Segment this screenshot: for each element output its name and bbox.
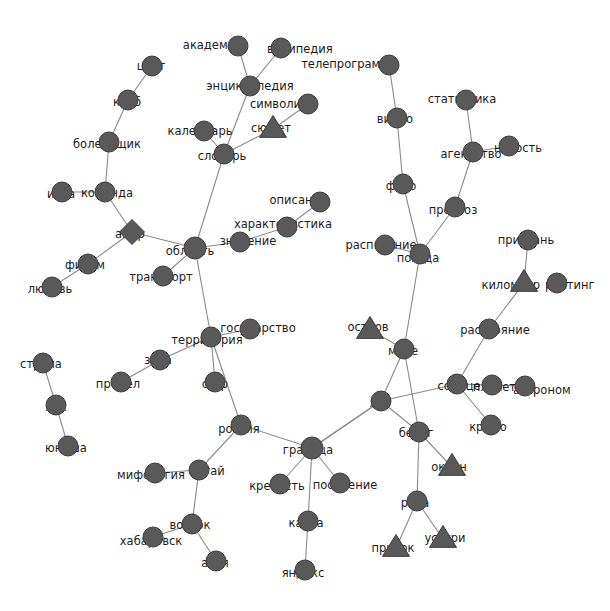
circle-node-icon[interactable] (194, 121, 214, 141)
graph-node[interactable]: восток (170, 514, 211, 534)
circle-node-icon[interactable] (150, 350, 170, 370)
graph-node[interactable]: сюжет (251, 116, 291, 138)
circle-node-icon[interactable] (270, 474, 290, 494)
circle-node-icon[interactable] (379, 55, 399, 75)
graph-node[interactable]: лук (45, 395, 66, 415)
circle-node-icon[interactable] (201, 327, 221, 347)
circle-node-icon[interactable] (393, 174, 413, 194)
graph-node[interactable]: яндекс (282, 560, 325, 580)
circle-node-icon[interactable] (46, 395, 66, 415)
circle-node-icon[interactable] (301, 437, 323, 459)
circle-node-icon[interactable] (499, 136, 519, 156)
circle-node-icon[interactable] (394, 339, 414, 359)
circle-node-icon[interactable] (482, 375, 502, 395)
graph-node[interactable]: река (401, 491, 429, 511)
circle-node-icon[interactable] (78, 254, 98, 274)
graph-node[interactable]: область (166, 237, 215, 259)
circle-node-icon[interactable] (387, 108, 407, 128)
graph-node[interactable]: прогноз (429, 197, 478, 217)
circle-node-icon[interactable] (184, 237, 206, 259)
graph-node[interactable]: телепрограмма (301, 55, 399, 75)
graph-node[interactable]: уссури (424, 526, 465, 548)
graph-node[interactable]: цвет (137, 56, 166, 76)
circle-node-icon[interactable] (371, 391, 391, 411)
graph-node[interactable]: юноша (45, 436, 87, 456)
circle-node-icon[interactable] (42, 277, 62, 297)
circle-node-icon[interactable] (240, 319, 260, 339)
graph-node[interactable]: команда (81, 182, 133, 202)
graph-node[interactable]: фото (386, 174, 417, 194)
diamond-node-icon[interactable] (120, 220, 145, 245)
circle-node-icon[interactable] (298, 511, 318, 531)
graph-node[interactable]: граница (283, 437, 333, 459)
circle-node-icon[interactable] (231, 415, 251, 435)
circle-node-icon[interactable] (206, 551, 226, 571)
graph-node[interactable]: календарь (167, 121, 232, 141)
circle-node-icon[interactable] (33, 353, 53, 373)
graph-node[interactable]: транспорт (129, 266, 193, 286)
graph-node[interactable]: болельщик (73, 132, 141, 152)
circle-node-icon[interactable] (214, 144, 234, 164)
graph-node[interactable]: энциклопедия (206, 76, 293, 96)
graph-node[interactable]: крыло (469, 415, 507, 435)
circle-node-icon[interactable] (410, 244, 430, 264)
graph-node[interactable]: академик (183, 36, 248, 56)
circle-node-icon[interactable] (182, 514, 202, 534)
circle-node-icon[interactable] (271, 38, 291, 58)
graph-node[interactable]: статистика (428, 90, 497, 110)
graph-node[interactable]: россия (218, 415, 259, 436)
graph-node[interactable]: километр (481, 270, 540, 292)
circle-node-icon[interactable] (277, 217, 297, 237)
circle-node-icon[interactable] (409, 422, 429, 442)
graph-node[interactable]: любовь (28, 277, 73, 297)
graph-node[interactable]: игра (47, 182, 75, 202)
circle-node-icon[interactable] (515, 376, 535, 396)
circle-node-icon[interactable] (298, 94, 318, 114)
circle-node-icon[interactable] (547, 273, 567, 293)
circle-node-icon[interactable] (111, 372, 131, 392)
graph-node[interactable]: астроном (513, 376, 571, 397)
graph-node[interactable]: берег (399, 422, 434, 442)
graph-node[interactable]: новость (494, 136, 542, 156)
graph-node[interactable]: алтай (189, 460, 225, 480)
graph-node[interactable]: лес (370, 391, 391, 411)
circle-node-icon[interactable] (52, 182, 72, 202)
graph-node[interactable]: символика (250, 94, 318, 114)
circle-node-icon[interactable] (479, 319, 499, 339)
graph-node[interactable]: википедия (267, 38, 333, 58)
circle-node-icon[interactable] (310, 192, 330, 212)
circle-node-icon[interactable] (447, 374, 467, 394)
circle-node-icon[interactable] (143, 527, 163, 547)
graph-node[interactable]: мифология (117, 463, 185, 483)
circle-node-icon[interactable] (205, 372, 225, 392)
graph-node[interactable]: азия (201, 551, 229, 571)
graph-node[interactable]: карта (288, 511, 323, 531)
circle-node-icon[interactable] (189, 460, 209, 480)
circle-node-icon[interactable] (99, 132, 119, 152)
circle-node-icon[interactable] (456, 90, 476, 110)
graph-node[interactable]: приток (372, 535, 415, 557)
circle-node-icon[interactable] (518, 230, 538, 250)
circle-node-icon[interactable] (230, 232, 250, 252)
circle-node-icon[interactable] (481, 415, 501, 435)
graph-node[interactable]: пристань (498, 230, 555, 250)
graph-node[interactable]: словарь (198, 144, 247, 164)
circle-node-icon[interactable] (145, 463, 165, 483)
graph-node[interactable]: описание (270, 192, 330, 212)
graph-node[interactable]: стрела (20, 353, 62, 373)
circle-node-icon[interactable] (118, 90, 138, 110)
graph-node[interactable]: расстояние (460, 319, 530, 339)
circle-node-icon[interactable] (95, 182, 115, 202)
graph-node[interactable]: клуб (113, 90, 141, 110)
graph-node[interactable]: крепость (249, 474, 305, 494)
graph-node[interactable]: остров (347, 317, 388, 339)
circle-node-icon[interactable] (142, 56, 162, 76)
circle-node-icon[interactable] (463, 142, 483, 162)
circle-node-icon[interactable] (240, 76, 260, 96)
circle-node-icon[interactable] (330, 473, 350, 493)
circle-node-icon[interactable] (228, 36, 248, 56)
circle-node-icon[interactable] (295, 560, 315, 580)
graph-node[interactable]: поселение (313, 473, 377, 493)
circle-node-icon[interactable] (407, 491, 427, 511)
graph-node[interactable]: видео (377, 108, 413, 128)
